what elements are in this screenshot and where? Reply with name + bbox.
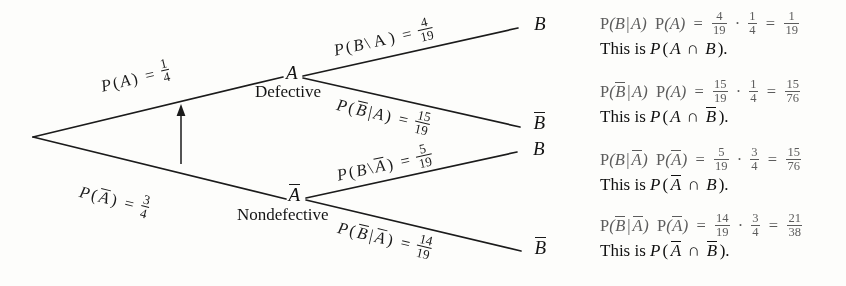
result-caption-1: This is P(A ∩ B). — [600, 40, 846, 58]
result-block-3: P(B|A) P(A) = 5 19 · 3 4 = 15 76 — [600, 146, 846, 193]
branch-line-root-to-Abar — [33, 137, 286, 199]
terminal-label-B-lower: B — [533, 139, 545, 158]
result-caption-4: This is P(A ∩ B). — [600, 242, 846, 260]
result-caption-2: This is P(A ∩ B). — [600, 108, 846, 126]
result-equation-3: P(B|A) P(A) = 5 19 · 3 4 = 15 76 — [600, 146, 846, 173]
node-word-nondefective: Nondefective — [237, 206, 329, 223]
results-column: P(B|A) P(A) = 4 19 · 1 4 = 1 19 — [600, 0, 846, 286]
result-block-1: P(B|A) P(A) = 4 19 · 1 4 = 1 19 — [600, 10, 846, 57]
terminal-label-Bbar-upper: B — [533, 113, 546, 132]
terminal-label-Bbar-lower: B — [534, 238, 547, 257]
upward-arrow — [177, 104, 186, 164]
node-word-defective: Defective — [255, 83, 321, 100]
terminal-label-B-upper: B — [534, 14, 546, 33]
result-equation-4: P(B|A) P(A) = 14 19 · 3 4 = 21 38 — [600, 212, 846, 239]
result-equation-2: P(B|A) P(A) = 15 19 · 1 4 = 15 76 — [600, 78, 846, 105]
result-caption-3: This is P(A ∩ B). — [600, 176, 846, 194]
probability-tree-figure: A Defective A Nondefective B B B B P(A) … — [0, 0, 846, 286]
node-label-A: A — [286, 63, 298, 82]
node-label-A-bar: A — [288, 185, 301, 204]
result-block-2: P(B|A) P(A) = 15 19 · 1 4 = 15 76 — [600, 78, 846, 125]
result-block-4: P(B|A) P(A) = 14 19 · 3 4 = 21 38 — [600, 212, 846, 259]
result-equation-1: P(B|A) P(A) = 4 19 · 1 4 = 1 19 — [600, 10, 846, 37]
